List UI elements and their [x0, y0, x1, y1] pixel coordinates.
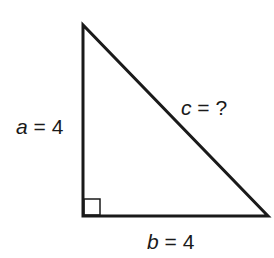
right-triangle-diagram: a = 4 c = ? b = 4: [0, 0, 274, 258]
side-a-label: a = 4: [16, 115, 64, 138]
side-b-label: b = 4: [147, 230, 195, 253]
hypotenuse-c-label: c = ?: [181, 96, 227, 119]
triangle-outline: [83, 25, 268, 216]
right-angle-marker: [84, 199, 100, 215]
